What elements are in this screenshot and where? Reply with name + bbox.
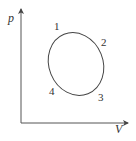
point-1-label: 1 [54,20,60,32]
point-4-label: 4 [49,85,55,97]
point-3-label: 3 [98,91,104,103]
pv-diagram: p V 1 2 3 4 [0,0,136,141]
point-2-label: 2 [101,36,107,48]
v-axis-label: V [115,122,124,136]
p-axis-label: p [7,11,14,25]
